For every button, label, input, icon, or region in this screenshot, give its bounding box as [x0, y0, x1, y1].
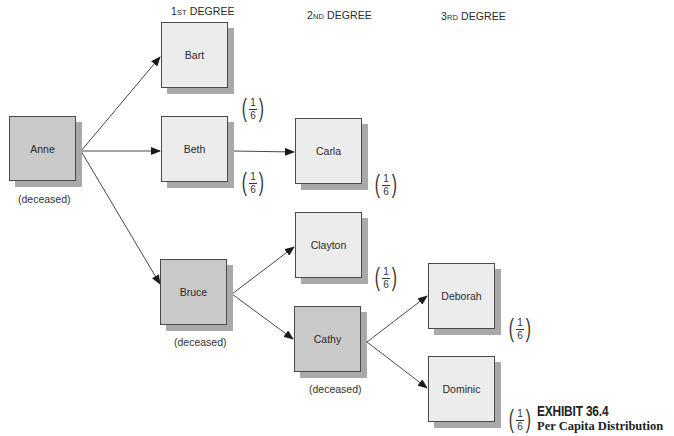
node-label: Dominic	[443, 383, 481, 395]
node-label: Carla	[316, 145, 341, 157]
node-cathy: Cathy	[294, 306, 361, 372]
node-label: Clayton	[311, 239, 347, 251]
share-clayton: ( 1 6 )	[376, 265, 396, 291]
paren-right: )	[392, 263, 397, 291]
share-bart: ( 1 6 )	[243, 96, 263, 122]
node-label: Beth	[184, 143, 206, 155]
share-deborah: ( 1 6 )	[510, 316, 530, 342]
exhibit-caption: EXHIBIT 36.4 Per Capita Distribution	[537, 403, 663, 434]
edge-bruce-cathy	[232, 294, 293, 339]
edge-beth-carla	[233, 151, 294, 152]
node-deborah: Deborah	[428, 263, 495, 329]
node-label: Bart	[185, 49, 204, 61]
edge-cathy-deborah	[367, 296, 427, 342]
edge-cathy-dominic	[367, 342, 427, 388]
node-anne: Anne	[9, 116, 76, 181]
status-cathy: (deceased)	[309, 383, 362, 395]
paren-right: )	[259, 94, 264, 122]
share-beth: ( 1 6 )	[243, 170, 263, 196]
exhibit-title: EXHIBIT 36.4	[537, 403, 644, 419]
exhibit-subtitle: Per Capita Distribution	[537, 419, 663, 434]
share-carla: ( 1 6 )	[376, 172, 396, 198]
node-label: Bruce	[180, 286, 207, 298]
status-bruce: (deceased)	[174, 336, 227, 348]
paren-right: )	[259, 168, 264, 196]
edge-bruce-clayton	[232, 247, 294, 294]
edge-anne-bart	[81, 57, 160, 151]
node-bart: Bart	[161, 22, 228, 88]
edge-anne-bruce	[81, 151, 160, 284]
status-anne: (deceased)	[18, 193, 71, 205]
node-clayton: Clayton	[295, 212, 362, 278]
node-beth: Beth	[161, 116, 228, 182]
node-dominic: Dominic	[428, 356, 495, 422]
paren-right: )	[392, 170, 397, 198]
paren-right: )	[526, 405, 531, 433]
node-label: Anne	[30, 143, 55, 155]
node-bruce: Bruce	[160, 259, 227, 325]
share-dominic: ( 1 6 )	[510, 407, 530, 433]
node-label: Deborah	[441, 290, 481, 302]
paren-right: )	[526, 314, 531, 342]
node-carla: Carla	[295, 118, 362, 184]
node-label: Cathy	[314, 333, 341, 345]
